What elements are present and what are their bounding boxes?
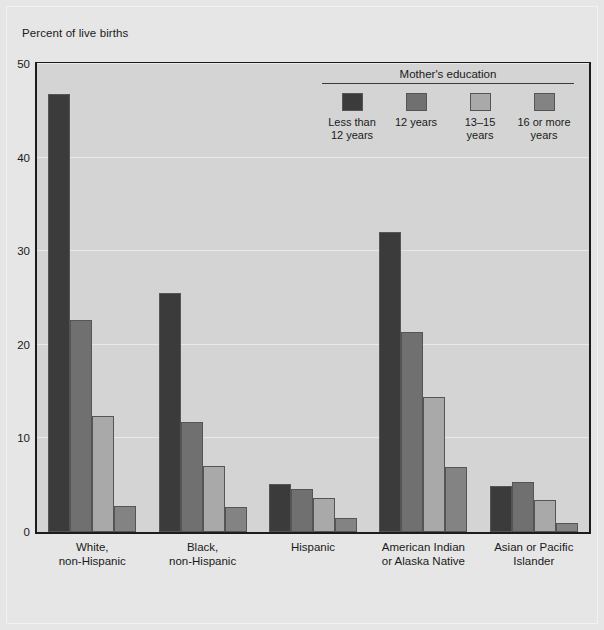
legend-divider	[322, 83, 574, 84]
legend-item-label: 12 years	[386, 116, 446, 129]
y-axis-tick-label: 30	[0, 245, 30, 257]
bar	[269, 484, 291, 532]
bar	[114, 506, 136, 532]
bar	[203, 466, 225, 532]
legend-item: 16 or moreyears	[514, 93, 574, 141]
bar	[92, 416, 114, 532]
legend-item-label-line: 12 years	[322, 129, 382, 142]
x-axis-category-label-line: Asian or Pacific	[494, 541, 573, 555]
y-axis-title: Percent of live births	[22, 27, 128, 39]
x-axis-category-label-line: non-Hispanic	[169, 555, 236, 569]
x-axis-category-label: Hispanic	[291, 541, 335, 555]
bar	[225, 507, 247, 532]
chart-figure: Percent of live births 01020304050 White…	[0, 0, 604, 630]
legend-items: Less than12 years12 years13–15 years16 o…	[322, 93, 574, 141]
legend-swatch	[342, 93, 363, 111]
legend-item-label-line: 13–15 years	[450, 116, 510, 141]
legend-swatch	[534, 93, 555, 111]
legend-swatch	[470, 93, 491, 111]
y-axis-tick-label: 40	[0, 152, 30, 164]
legend-item-label-line: 16 or more	[514, 116, 574, 129]
legend: Mother's education Less than12 years12 y…	[322, 68, 574, 141]
bar	[159, 293, 181, 532]
bar	[335, 518, 357, 532]
x-axis-category-label: American Indianor Alaska Native	[382, 541, 465, 568]
legend-item-label: 13–15 years	[450, 116, 510, 141]
y-axis-tick-label: 10	[0, 432, 30, 444]
x-axis-category-label: Asian or PacificIslander	[494, 541, 573, 568]
x-axis-category-label-line: or Alaska Native	[382, 555, 465, 569]
x-axis-category-label-line: Islander	[494, 555, 573, 569]
x-axis-category-label-line: non-Hispanic	[59, 555, 126, 569]
legend-item-label-line: years	[514, 129, 574, 142]
bar	[512, 482, 534, 532]
legend-item: 12 years	[386, 93, 446, 129]
y-axis-tick-labels: 01020304050	[0, 62, 30, 534]
bar	[291, 489, 313, 532]
legend-item-label-line: 12 years	[386, 116, 446, 129]
bar	[556, 523, 578, 532]
bar	[401, 332, 423, 532]
x-axis-category-label: Black,non-Hispanic	[169, 541, 236, 568]
bar	[445, 467, 467, 532]
bar	[181, 422, 203, 532]
legend-item-label: Less than12 years	[322, 116, 382, 141]
legend-swatch	[406, 93, 427, 111]
legend-title: Mother's education	[322, 68, 574, 80]
x-axis-category-label-line: Hispanic	[291, 541, 335, 555]
bar	[313, 498, 335, 532]
x-axis-category-label: White,non-Hispanic	[59, 541, 126, 568]
y-axis-tick-label: 50	[0, 58, 30, 70]
bar	[379, 232, 401, 532]
bar	[48, 94, 70, 532]
bar	[423, 397, 445, 532]
y-axis-tick-label: 20	[0, 339, 30, 351]
x-axis-category-labels: White,non-HispanicBlack,non-HispanicHisp…	[35, 541, 591, 587]
bar	[534, 500, 556, 532]
x-axis-category-label-line: American Indian	[382, 541, 465, 555]
legend-item-label: 16 or moreyears	[514, 116, 574, 141]
bar	[490, 486, 512, 532]
legend-item: Less than12 years	[322, 93, 382, 141]
legend-item: 13–15 years	[450, 93, 510, 141]
y-axis-tick-label: 0	[0, 526, 30, 538]
x-axis-category-label-line: Black,	[169, 541, 236, 555]
bar	[70, 320, 92, 532]
x-axis-category-label-line: White,	[59, 541, 126, 555]
legend-item-label-line: Less than	[322, 116, 382, 129]
